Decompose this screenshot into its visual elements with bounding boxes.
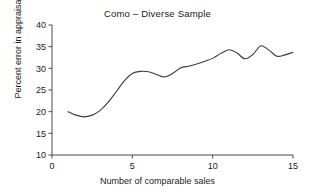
x-tick-label: 15 [288, 161, 298, 171]
data-series-line [68, 46, 293, 117]
axes [52, 25, 293, 155]
y-tick-label: 20 [36, 107, 46, 117]
y-tick-label: 35 [36, 42, 46, 52]
y-tick-label: 30 [36, 64, 46, 74]
y-tick-label: 10 [36, 150, 46, 160]
plot-area: 10152025303540 051015 [0, 0, 315, 196]
x-tick-label: 10 [208, 161, 218, 171]
chart-figure: Como – Diverse Sample Percent error in a… [0, 0, 315, 196]
x-axis-ticks: 051015 [49, 155, 298, 171]
x-tick-label: 0 [49, 161, 54, 171]
x-tick-label: 5 [130, 161, 135, 171]
y-tick-label: 15 [36, 129, 46, 139]
y-tick-label: 25 [36, 85, 46, 95]
y-axis-ticks: 10152025303540 [36, 20, 52, 160]
y-tick-label: 40 [36, 20, 46, 30]
